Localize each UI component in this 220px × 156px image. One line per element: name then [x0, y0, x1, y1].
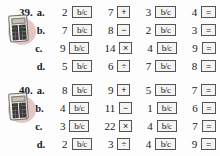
operand-second: 14 [93, 42, 119, 54]
operand-third: 4 [136, 42, 157, 54]
bc-key[interactable]: b/c [157, 102, 177, 114]
operator-key[interactable]: ÷ [117, 138, 130, 150]
exercise-part-label: d. [36, 61, 51, 72]
equals-key[interactable]: = [202, 42, 216, 54]
bc-key[interactable]: b/c [72, 84, 93, 96]
equals-key[interactable]: = [202, 102, 216, 114]
calculator-icon-screen [11, 95, 25, 102]
operand-first: 5 [51, 60, 72, 72]
equals-key[interactable]: = [201, 84, 216, 96]
operand-second: 22 [93, 120, 119, 132]
operand-first: 2 [51, 138, 72, 150]
bc-key[interactable]: b/c [157, 42, 177, 54]
operand-fourth: 4 [180, 6, 201, 18]
calculator-icon [6, 92, 38, 124]
bc-key[interactable]: b/c [155, 60, 176, 72]
operand-first: 4 [48, 102, 69, 114]
operand-fourth: 9 [180, 138, 201, 150]
equals-key[interactable]: = [201, 138, 216, 150]
bc-key[interactable]: b/c [155, 6, 176, 18]
operator-key[interactable]: − [119, 102, 131, 114]
operand-third: 5 [134, 84, 155, 96]
operand-second: 6 [96, 60, 117, 72]
operator-key[interactable]: + [117, 6, 130, 18]
exercise-part-label: d. [36, 139, 51, 150]
operator-key[interactable]: ÷ [117, 60, 130, 72]
exercise-row: 40. d. 2 b/c 3 ÷ 4 b/c 9 = [0, 135, 220, 153]
exercise-page: 39. a. 2 b/c 7 + 3 b/c 4 = 39. b. 7 b/c … [0, 0, 220, 156]
operand-second: 9 [96, 84, 117, 96]
equals-key[interactable]: = [202, 120, 216, 132]
operand-third: 4 [134, 138, 155, 150]
calculator-icon-key [23, 114, 26, 118]
bc-key[interactable]: b/c [155, 138, 176, 150]
operand-fourth: 3 [180, 24, 201, 36]
calculator-icon-body [8, 92, 29, 120]
calculator-icon-body [8, 14, 29, 42]
operand-first: 7 [51, 24, 72, 36]
operator-key[interactable]: × [119, 120, 131, 132]
bc-key[interactable]: b/c [155, 84, 176, 96]
equals-key[interactable]: = [201, 24, 216, 36]
operand-first: 3 [48, 120, 69, 132]
operand-third: 2 [134, 24, 155, 36]
operand-first: 9 [48, 42, 69, 54]
operand-second: 3 [96, 138, 117, 150]
operand-third: 3 [134, 6, 155, 18]
bc-key[interactable]: b/c [72, 24, 93, 36]
operand-fourth: 9 [181, 42, 202, 54]
calculator-icon-key [23, 36, 26, 40]
bc-key[interactable]: b/c [155, 24, 176, 36]
operand-third: 4 [136, 120, 157, 132]
operand-second: 7 [96, 6, 117, 18]
calculator-icon-screen [11, 17, 25, 24]
bc-key[interactable]: b/c [72, 138, 93, 150]
bc-key[interactable]: b/c [69, 120, 89, 132]
exercise-group-40: 40. a. 8 b/c 9 + 5 b/c 7 = 40. b. 4 b/c … [0, 78, 220, 156]
calculator-icon [6, 14, 38, 46]
bc-key[interactable]: b/c [72, 60, 93, 72]
operand-third: 1 [136, 102, 157, 114]
operand-first: 2 [51, 6, 72, 18]
operand-third: 7 [134, 60, 155, 72]
operator-key[interactable]: − [117, 24, 130, 36]
bc-key[interactable]: b/c [69, 102, 89, 114]
operand-fourth: 6 [181, 102, 202, 114]
bc-key[interactable]: b/c [72, 6, 93, 18]
bc-key[interactable]: b/c [157, 120, 177, 132]
exercise-group-39: 39. a. 2 b/c 7 + 3 b/c 4 = 39. b. 7 b/c … [0, 0, 220, 78]
bc-key[interactable]: b/c [69, 42, 89, 54]
operand-second: 11 [93, 102, 119, 114]
exercise-row: 39. d. 5 b/c 6 ÷ 7 b/c 8 = [0, 57, 220, 75]
operand-first: 8 [51, 84, 72, 96]
calculator-icon-keypad [11, 102, 26, 118]
operand-fourth: 7 [181, 120, 202, 132]
operator-key[interactable]: × [119, 42, 131, 54]
operand-fourth: 7 [180, 84, 201, 96]
operand-second: 8 [96, 24, 117, 36]
operand-fourth: 8 [180, 60, 201, 72]
operator-key[interactable]: + [117, 84, 130, 96]
equals-key[interactable]: = [201, 60, 216, 72]
calculator-icon-keypad [11, 24, 26, 40]
equals-key[interactable]: = [201, 6, 216, 18]
